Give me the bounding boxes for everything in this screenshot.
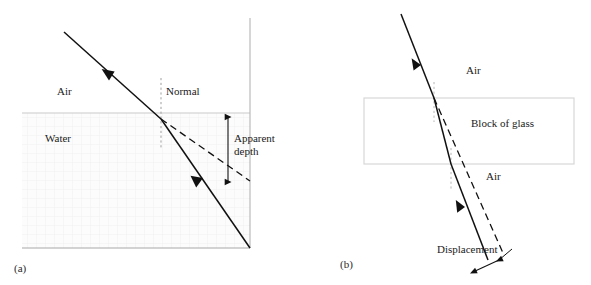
- label-apparent-depth: Apparent depth: [234, 132, 290, 157]
- displacement-dimension-line: [473, 260, 499, 272]
- label-block-of-glass: Block of glass: [471, 117, 534, 130]
- incident-ray-air-b: [401, 14, 434, 98]
- label-normal-a: Normal: [166, 85, 200, 98]
- panel-b-displacement: Air Block of glass Air Displacement (b): [296, 0, 591, 285]
- label-air-below-b: Air: [486, 170, 501, 183]
- label-air-upper-a: Air: [57, 85, 72, 98]
- panel-tag-a: (a): [14, 262, 26, 274]
- panel-a-apparent-depth: Air Water Normal Apparent depth (a): [0, 0, 296, 285]
- displacement-leader-line: [499, 249, 512, 260]
- label-water-a: Water: [45, 132, 71, 145]
- figure-root: Air Water Normal Apparent depth (a): [0, 0, 591, 285]
- glass-block: [364, 98, 574, 164]
- emergent-ray-arrowhead-b: [456, 200, 465, 213]
- label-air-above-b: Air: [466, 64, 481, 77]
- label-displacement: Displacement: [437, 243, 497, 256]
- panel-tag-b: (b): [340, 258, 353, 270]
- incident-ray-air: [64, 32, 161, 119]
